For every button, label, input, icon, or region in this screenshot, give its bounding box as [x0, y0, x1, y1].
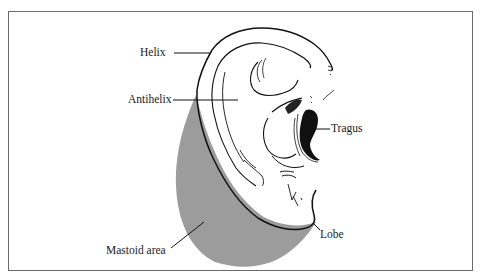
- triangular-fossa: [257, 58, 266, 82]
- label-tragus: Tragus: [331, 123, 363, 135]
- lobe-leader: [313, 223, 320, 230]
- helix-inner-rim: [218, 43, 311, 68]
- lower-ridge: [240, 150, 264, 186]
- label-mastoid-area: Mastoid area: [106, 245, 166, 257]
- helix-crus-shading: [285, 99, 302, 114]
- antitragus: [272, 156, 304, 178]
- label-antihelix: Antihelix: [128, 94, 171, 106]
- label-helix: Helix: [140, 47, 166, 59]
- ear-notch-marks: [310, 66, 334, 103]
- ear-illustration: [0, 0, 482, 279]
- helix-outline: [212, 28, 332, 70]
- lobe-creases: [288, 184, 302, 206]
- label-lobe: Lobe: [320, 229, 344, 241]
